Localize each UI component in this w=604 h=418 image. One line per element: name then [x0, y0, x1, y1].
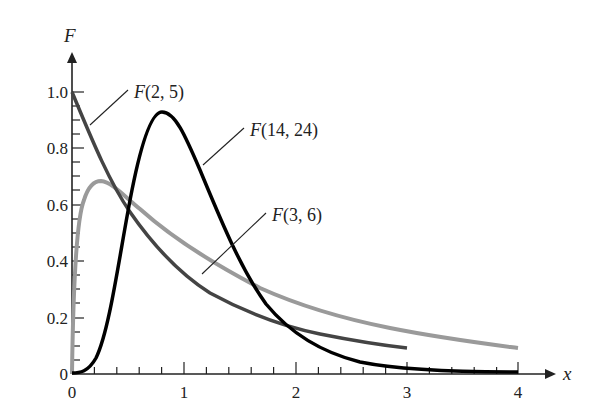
leader-line-f-3-6	[202, 213, 266, 274]
curve-f-14-24	[72, 112, 518, 373]
f-distribution-chart: 0 1 2 3 4 0 0.2 0.4 0.6 0.8 1.0 F x FF(2…	[0, 0, 604, 418]
label-f-3-6-args: (3, 6)	[283, 205, 322, 226]
x-tick-0: 0	[68, 383, 77, 402]
x-tick-4: 4	[514, 383, 523, 402]
x-tick-2: 2	[292, 383, 301, 402]
label-f-2-5: FF(2, 5)(2, 5)	[133, 82, 184, 103]
label-f-3-6: FF(3, 6)(3, 6)	[271, 205, 322, 226]
y-axis-arrow-icon	[67, 52, 77, 63]
y-tick-0-6: 0.6	[47, 196, 68, 215]
y-tick-0-4: 0.4	[47, 252, 69, 271]
y-tick-0-2: 0.2	[47, 309, 68, 328]
x-tick-labels: 0 1 2 3 4	[68, 383, 523, 402]
x-axis-label: x	[562, 363, 572, 384]
x-tick-3: 3	[403, 383, 412, 402]
label-f-14-24: FF(14, 24)(14, 24)	[249, 120, 318, 141]
y-tick-labels: 0 0.2 0.4 0.6 0.8 1.0	[47, 83, 69, 384]
label-f-14-24-args: (14, 24)	[261, 120, 318, 141]
leader-line-f-14-24	[203, 128, 244, 165]
curve-f-2-5	[72, 92, 407, 348]
leader-line-f-2-5	[90, 90, 128, 125]
y-tick-0-8: 0.8	[47, 139, 68, 158]
y-tick-1-0: 1.0	[47, 83, 68, 102]
y-tick-0: 0	[60, 365, 69, 384]
x-axis-arrow-icon	[545, 369, 556, 379]
y-axis-label: F	[63, 25, 76, 46]
x-tick-1: 1	[180, 383, 189, 402]
label-f-2-5-args: (2, 5)	[145, 82, 184, 103]
